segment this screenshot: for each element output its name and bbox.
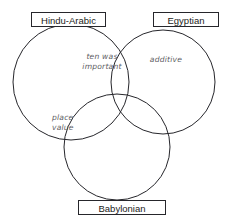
set-label-egyptian: Egyptian (153, 12, 219, 27)
region-label-hindu-arabic-egyptian: ten was important (78, 52, 126, 72)
set-label-hindu-arabic: Hindu-Arabic (31, 12, 106, 27)
circle-babylonian (64, 94, 170, 200)
region-label-hindu-arabic-babylonian: place value (52, 113, 94, 133)
venn-diagram: ten was important additive place value H… (0, 0, 244, 223)
set-label-babylonian: Babylonian (78, 200, 166, 215)
venn-circles-canvas (0, 0, 244, 223)
region-label-egyptian-only: additive (140, 55, 192, 65)
circle-egyptian (111, 30, 215, 134)
